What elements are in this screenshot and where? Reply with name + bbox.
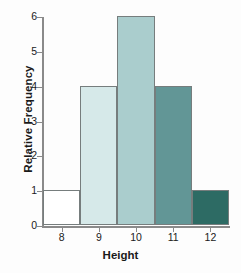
y-tick-label: 5: [31, 45, 37, 58]
bar-10: [117, 16, 154, 225]
bar-12: [192, 190, 229, 225]
y-tick-mark: [37, 226, 43, 227]
bar-11: [155, 86, 192, 225]
x-tick-label-10: 10: [116, 231, 156, 243]
x-tick-label-9: 9: [79, 231, 119, 243]
x-tick-label-8: 8: [42, 231, 82, 243]
x-tick-label-11: 11: [153, 231, 193, 243]
y-tick-mark: [37, 52, 43, 53]
histogram-chart: Relative Frequency 0123456 89101112 Heig…: [0, 0, 241, 273]
bar-8: [43, 190, 80, 225]
x-tick-label-12: 12: [190, 231, 230, 243]
y-tick-label: 3: [31, 115, 37, 128]
y-tick-label: 4: [31, 80, 37, 93]
y-tick-label: 1: [31, 184, 37, 197]
y-tick-mark: [37, 122, 43, 123]
y-tick-mark: [37, 156, 43, 157]
plot-area: 0123456 89101112: [42, 17, 228, 227]
y-tick-label: 6: [31, 10, 37, 23]
x-axis-title: Height: [0, 249, 241, 261]
bar-9: [80, 86, 117, 225]
y-tick-label: 2: [31, 149, 37, 162]
y-tick-label: 0: [31, 219, 37, 232]
y-tick-mark: [37, 87, 43, 88]
y-tick-mark: [37, 17, 43, 18]
